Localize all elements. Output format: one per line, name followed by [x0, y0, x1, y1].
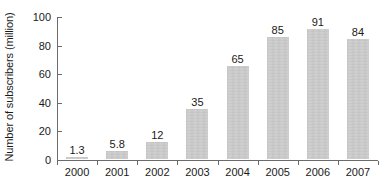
- y-axis-tick-label: 80: [18, 41, 51, 51]
- bar-chart-figure: Number of subscribers (million) 02040608…: [0, 0, 386, 187]
- bar-value-label: 91: [298, 16, 338, 28]
- bar: [267, 37, 289, 159]
- x-axis-tick-mark: [378, 161, 379, 165]
- y-axis-tick-mark: [58, 17, 62, 18]
- plot-area: 1.35.8123565859184: [57, 17, 378, 160]
- bar-value-label: 65: [218, 53, 258, 65]
- x-axis-tick-mark: [177, 161, 178, 165]
- bar-value-label: 85: [258, 24, 298, 36]
- y-axis-tick-label: 100: [18, 12, 51, 22]
- bar: [307, 29, 329, 159]
- y-axis-tick-mark: [58, 46, 62, 47]
- bar: [227, 66, 249, 159]
- bar: [106, 151, 128, 159]
- x-axis-tick-mark: [298, 161, 299, 165]
- x-axis-tick-mark: [338, 161, 339, 165]
- x-axis-tick-mark: [97, 161, 98, 165]
- y-axis-tick-mark: [58, 103, 62, 104]
- bar-value-label: 5.8: [97, 138, 137, 150]
- y-axis-tick-label: 60: [18, 69, 51, 79]
- x-axis-tick-label: 2002: [137, 166, 177, 179]
- y-axis-tick-label: 0: [18, 155, 51, 165]
- y-axis-tick-mark: [58, 131, 62, 132]
- y-axis-tick-label: 20: [18, 126, 51, 136]
- x-axis-tick-mark: [57, 161, 58, 165]
- bar-value-label: 1.3: [57, 144, 97, 156]
- y-axis-tick-label: 40: [18, 98, 51, 108]
- y-axis-title: Number of subscribers (million): [2, 12, 16, 162]
- y-axis-tick-mark: [58, 160, 62, 161]
- bar: [347, 39, 369, 159]
- bar: [146, 142, 168, 159]
- y-axis-tick-labels: 020406080100: [18, 0, 51, 187]
- bar-value-label: 12: [137, 129, 177, 141]
- x-axis-tick-mark: [137, 161, 138, 165]
- x-axis-tick-mark: [218, 161, 219, 165]
- x-axis-tick-label: 2003: [177, 166, 217, 179]
- x-axis-tick-label: 2006: [298, 166, 338, 179]
- bar-value-label: 84: [338, 26, 378, 38]
- x-axis-tick-label: 2000: [57, 166, 97, 179]
- bar-value-label: 35: [177, 96, 217, 108]
- y-axis-tick-mark: [58, 74, 62, 75]
- x-axis-tick-label: 2004: [218, 166, 258, 179]
- x-axis-tick-label: 2007: [338, 166, 378, 179]
- x-axis-tick-label: 2005: [258, 166, 298, 179]
- y-axis-line: [57, 17, 58, 161]
- bar: [186, 109, 208, 159]
- x-axis-tick-mark: [258, 161, 259, 165]
- bar: [66, 157, 88, 159]
- x-axis-tick-label: 2001: [97, 166, 137, 179]
